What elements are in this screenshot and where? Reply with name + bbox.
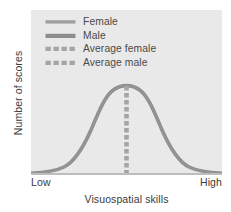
legend-label-average-male: Average male: [83, 57, 148, 68]
x-tick-label-high: High: [200, 176, 222, 188]
legend-item-male: Male: [45, 29, 205, 43]
legend-label-average-female: Average female: [83, 43, 156, 54]
plot-panel: Female Male Average female: [31, 10, 222, 175]
legend-swatch-solid-female: [45, 15, 76, 29]
legend-label-male: Male: [83, 30, 106, 41]
legend-swatch-dashed-average-male: [45, 56, 76, 70]
legend-swatch-solid-male: [45, 29, 76, 43]
x-axis-label: Visuospatial skills: [31, 193, 222, 205]
legend-swatch-dashed-average-female: [45, 42, 76, 56]
legend-label-female: Female: [83, 16, 118, 27]
legend-item-average-female: Average female: [45, 42, 205, 56]
chart-legend: Female Male Average female: [45, 15, 205, 69]
legend-item-female: Female: [45, 15, 205, 29]
legend-item-average-male: Average male: [45, 56, 205, 70]
y-axis-label: Number of scores: [12, 28, 24, 158]
chart-figure: Number of scores Female: [0, 0, 231, 212]
x-tick-label-low: Low: [31, 176, 51, 188]
